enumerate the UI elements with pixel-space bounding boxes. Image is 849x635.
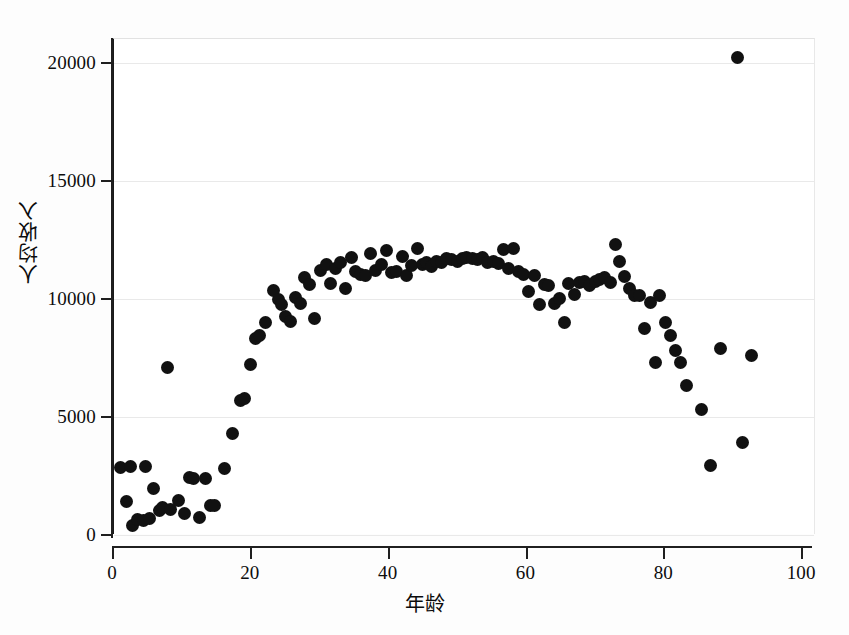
y-axis-tick <box>101 298 113 300</box>
gridline-y <box>114 299 814 300</box>
gridlines-group <box>114 39 814 534</box>
gridline-y <box>114 63 814 64</box>
x-axis-tick-label: 100 <box>787 562 816 583</box>
x-axis-tick-label: 0 <box>107 562 117 583</box>
x-axis-tick-label-wrap: 60 <box>486 562 566 584</box>
x-axis-tick-label-wrap: 80 <box>623 562 703 584</box>
gridline-y <box>114 417 814 418</box>
y-axis-tick <box>101 534 113 536</box>
x-axis-tick <box>250 548 252 559</box>
x-axis-tick-label: 60 <box>516 562 535 583</box>
y-axis-tick-label-wrap: 20000 <box>10 52 96 72</box>
x-axis-tick <box>801 548 803 559</box>
x-axis-tick <box>112 548 114 559</box>
x-axis-tick <box>526 548 528 559</box>
x-axis-line <box>112 546 812 548</box>
x-axis-tick-label-wrap: 40 <box>348 562 428 584</box>
x-axis-tick-label-wrap: 0 <box>72 562 152 584</box>
x-axis-tick <box>663 548 665 559</box>
y-axis-tick <box>101 62 113 64</box>
y-axis-tick <box>101 416 113 418</box>
y-axis-tick-label: 20000 <box>22 52 96 74</box>
y-axis-tick <box>101 180 113 182</box>
scatter-plot-area <box>112 38 815 534</box>
chart-page: 05000100001500020000 020406080100 人均收入 年… <box>0 0 849 635</box>
x-axis-tick <box>388 548 390 559</box>
y-axis-line <box>111 38 113 538</box>
x-axis-tick-label: 20 <box>240 562 259 583</box>
x-axis-tick-label-wrap: 20 <box>210 562 290 584</box>
x-axis-tick-label: 40 <box>378 562 397 583</box>
x-axis-title: 年龄 <box>0 588 849 617</box>
y-axis-title: 人均收入 <box>14 200 43 284</box>
y-axis-tick-label: 10000 <box>22 288 96 310</box>
y-axis-tick-label: 15000 <box>22 170 96 192</box>
y-axis-tick-label: 0 <box>22 524 96 546</box>
y-axis-tick-label-wrap: 10000 <box>10 288 96 308</box>
x-axis-tick-label-wrap: 100 <box>761 562 841 584</box>
y-axis-tick-label-wrap: 15000 <box>10 170 96 190</box>
gridline-y <box>114 181 814 182</box>
y-axis-tick-label-wrap: 5000 <box>10 406 96 426</box>
y-axis-tick-label-wrap: 0 <box>10 524 96 544</box>
y-axis-tick-label: 5000 <box>22 406 96 428</box>
x-axis-tick-label: 80 <box>654 562 673 583</box>
gridline-y <box>114 535 814 536</box>
